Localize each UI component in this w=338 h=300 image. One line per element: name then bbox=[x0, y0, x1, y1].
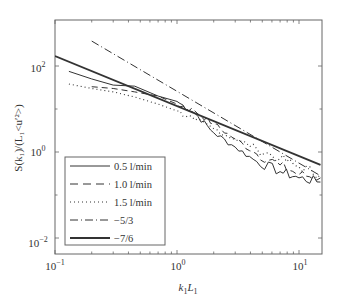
legend-label-1.5: 1.5 l/min bbox=[114, 197, 153, 208]
y-tick-label-0.01: 10−2 bbox=[28, 235, 48, 249]
legend: 0.5 l/min 1.0 l/min 1.5 l/min −5/3 −7/6 bbox=[65, 157, 165, 245]
legend-label-minus-5-3: −5/3 bbox=[114, 215, 133, 226]
legend-label-minus-7-6: −7/6 bbox=[114, 233, 133, 244]
legend-label-0.5: 0.5 l/min bbox=[114, 161, 153, 172]
series-line-3 bbox=[92, 41, 321, 176]
x-tick-label-10: 101 bbox=[293, 258, 308, 272]
spectrum-chart: 102 100 10−2 10−1 100 101 k1L1 S(k₁)/(L₁… bbox=[0, 0, 338, 300]
series-line-4 bbox=[55, 56, 320, 165]
x-tick-label-1: 100 bbox=[171, 258, 186, 272]
x-axis-label: k1L1 bbox=[178, 281, 197, 296]
legend-label-1.0: 1.0 l/min bbox=[114, 179, 153, 190]
x-tick-label-0.1: 10−1 bbox=[45, 258, 65, 272]
y-tick-label-1: 100 bbox=[31, 144, 46, 158]
y-tick-label-100: 102 bbox=[31, 60, 46, 74]
y-axis-label: S(k₁)/(L₁<u′²>) bbox=[12, 104, 25, 172]
